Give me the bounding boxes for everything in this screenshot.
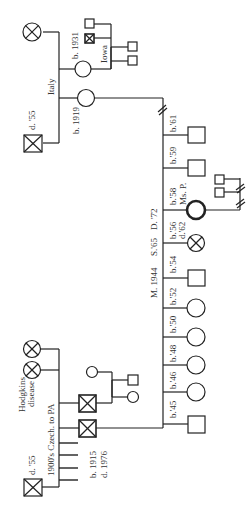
- child-death-label: d.'62: [177, 222, 187, 239]
- child-birth-label: b.'45: [168, 400, 178, 418]
- child-birth-label: b.'46: [168, 371, 178, 389]
- child-birth-label: b.'50: [168, 315, 178, 333]
- male-icon: [128, 375, 138, 385]
- uncle-deceased-icon: [79, 395, 96, 412]
- child-birth-label: b.'61: [168, 115, 178, 132]
- child-female-deceased-icon: [188, 235, 205, 252]
- hodgkins-affected-icon: [24, 341, 41, 358]
- child-male-icon: [188, 127, 205, 143]
- mother-birth-label: b. 1919: [71, 107, 81, 135]
- female-icon: [128, 392, 139, 403]
- proband-name-label: Ms. P.: [178, 183, 188, 205]
- other-siblings-stubs: [59, 443, 78, 480]
- child-birth-label: b.'48: [168, 344, 178, 362]
- child-female-icon: [187, 299, 205, 317]
- child-male-icon: [188, 416, 205, 433]
- proband-birth-label: b.'58: [168, 187, 178, 205]
- child-birth-label: b.'52: [168, 288, 178, 305]
- aunt-birth-label: b. 1931: [70, 32, 80, 59]
- male-deceased-affected-icon: [85, 34, 94, 43]
- married-label: M. 1944: [149, 267, 159, 298]
- czech-origin-label: 1900's Czech. to PA: [46, 403, 56, 476]
- child-female-icon: [187, 356, 205, 374]
- father-death-label: d. 1976: [99, 451, 109, 479]
- father-birth-label: b. 1915: [88, 451, 98, 479]
- male-icon: [215, 175, 224, 184]
- maternal-grandfather-death-label: d. '55: [27, 110, 37, 130]
- divorced-label: D. '72: [149, 208, 159, 230]
- child-birth-label: b.'59: [168, 146, 178, 164]
- uncle-spouse-circle: [87, 367, 98, 378]
- male-icon: [215, 188, 224, 197]
- male-icon: [128, 56, 137, 65]
- father-deceased-icon: [79, 420, 96, 437]
- hodgkins-affected-icon: [24, 362, 41, 379]
- child-male-icon: [188, 270, 205, 286]
- child-female-icon: [187, 328, 205, 346]
- hodgkins-label-line2: disease: [26, 381, 36, 407]
- maternal-grandmother-deceased-icon: [23, 23, 41, 41]
- separated-label: S.'65: [149, 238, 159, 256]
- paternal-grandfather-deceased-icon: [24, 479, 42, 496]
- male-icon: [128, 42, 137, 51]
- paternal-grandfather-death-label: d. '55: [27, 455, 37, 475]
- male-icon: [85, 19, 94, 28]
- child-male-icon: [188, 160, 205, 176]
- aunt-circle: [75, 61, 91, 77]
- child-female-icon: [187, 383, 205, 401]
- pedigree-diagram: Italy b. 1931 Iowa b. 1919 d. '55 M. 194…: [0, 0, 251, 523]
- child-birth-label: b.'54: [168, 255, 178, 273]
- italy-label: Italy: [46, 78, 56, 95]
- proband-circle: [187, 201, 205, 219]
- mother-circle: [78, 90, 95, 107]
- iowa-label: Iowa: [99, 45, 109, 63]
- maternal-grandfather-deceased-icon: [24, 135, 42, 152]
